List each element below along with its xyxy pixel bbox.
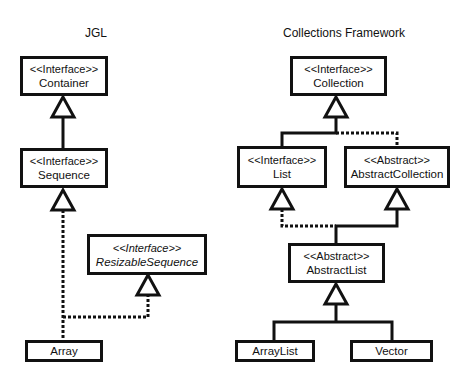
node-abstract-collection: <<Abstract>> AbstractCollection [344,146,450,188]
node-vector: Vector [350,340,433,362]
node-collection: <<Interface>> Collection [290,56,387,96]
triangle-arrow-icon [386,189,408,209]
class-name: ArrayList [252,344,297,358]
triangle-arrow-icon [325,284,347,304]
triangle-arrow-icon [137,275,159,295]
triangle-arrow-icon [52,97,74,117]
class-name: AbstractList [306,263,366,277]
stereotype-label: <<Interface>> [30,154,99,168]
jgl-title: JGL [85,26,107,40]
node-array: Array [25,340,103,362]
triangle-arrow-icon [325,97,347,117]
class-name: Sequence [38,168,90,182]
stereotype-label: <<Interface>> [248,153,317,167]
stereotype-label: <<Abstract>> [303,249,369,263]
edge-abscoll-collection [336,133,397,146]
edge-subclasses-abslist [274,322,392,340]
class-name: List [273,167,291,181]
class-name: Vector [375,344,408,358]
stereotype-label: <<Interface>> [113,241,182,255]
node-sequence: <<Interface>> Sequence [20,148,108,188]
collections-framework-title: Collections Framework [283,26,405,40]
class-name: ResizableSequence [96,255,198,269]
node-container: <<Interface>> Container [20,56,108,96]
node-array-list: ArrayList [235,340,315,362]
node-resizable-sequence: <<Interface>> ResizableSequence [87,234,207,275]
edge-abslist-abscoll [336,209,397,243]
node-abstract-list: <<Abstract>> AbstractList [288,243,385,283]
class-name: AbstractCollection [351,167,444,181]
edge-abslist-list [282,209,336,226]
class-name: Container [39,76,89,90]
stereotype-label: <<Abstract>> [364,153,430,167]
stereotype-label: <<Interface>> [304,62,373,76]
class-name: Collection [313,76,364,90]
triangle-arrow-icon [271,189,293,209]
node-list: <<Interface>> List [237,146,327,188]
edge-list-collection [282,117,336,146]
stereotype-label: <<Interface>> [30,62,99,76]
edge-array-resizable [63,295,148,317]
class-name: Array [50,344,77,358]
triangle-arrow-icon [52,190,74,210]
